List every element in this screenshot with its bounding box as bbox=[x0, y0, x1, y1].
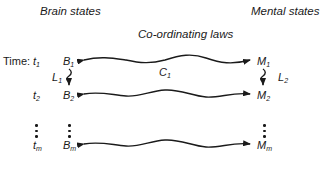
coordinating-arrow-rowm bbox=[84, 140, 250, 147]
coordinating-arrow-row2 bbox=[84, 90, 250, 97]
law-l1-arrow bbox=[67, 69, 72, 85]
arrows-layer bbox=[0, 0, 329, 173]
law-l2-arrow bbox=[261, 69, 266, 85]
coordinating-arrow-row1 bbox=[84, 55, 250, 63]
